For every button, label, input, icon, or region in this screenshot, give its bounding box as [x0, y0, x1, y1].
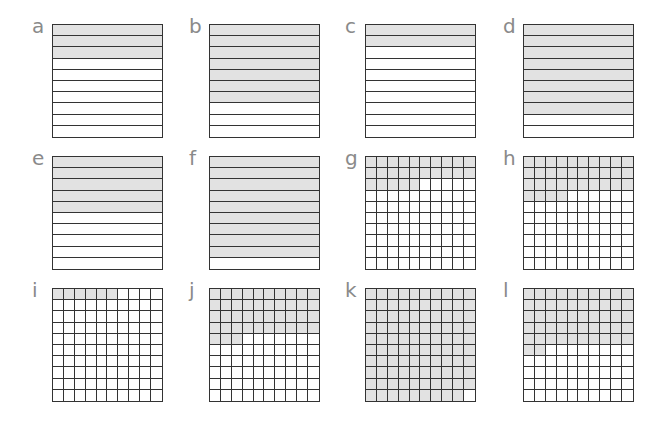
grid-cell [600, 356, 611, 367]
grid-cell [442, 213, 453, 224]
grid-cell [568, 224, 579, 235]
grid-cell [557, 179, 568, 190]
grid-cell [464, 300, 475, 311]
grid-strip [53, 202, 162, 213]
grid-cell [600, 235, 611, 246]
fraction-grid-f [209, 156, 320, 270]
grid-cell [453, 168, 464, 179]
grid-cell [366, 390, 377, 401]
grid-cell [557, 157, 568, 168]
grid-cell [366, 311, 377, 322]
grid-cell [97, 345, 108, 356]
grid-cell [388, 235, 399, 246]
grid-cell [399, 356, 410, 367]
grid-strip [210, 213, 319, 224]
grid-cell [568, 334, 579, 345]
grid-cell [264, 323, 275, 334]
grid-cell [410, 224, 421, 235]
grid-cell [366, 213, 377, 224]
grid-cell [388, 157, 399, 168]
grid-cell [464, 379, 475, 390]
grid-cell [578, 345, 589, 356]
grid-cell [557, 247, 568, 258]
grid-cell [118, 323, 129, 334]
grid-cell [264, 334, 275, 345]
grid-cell [410, 379, 421, 390]
grid-cell [442, 367, 453, 378]
grid-cell [53, 345, 64, 356]
grid-cell [75, 345, 86, 356]
grid-cell [210, 334, 221, 345]
grid-strip [210, 47, 319, 58]
grid-cell [86, 390, 97, 401]
grid-cell [53, 334, 64, 345]
grid-cell [546, 247, 557, 258]
grid-strip [53, 59, 162, 70]
grid-cell [442, 235, 453, 246]
grid-cell [243, 379, 254, 390]
grid-cell [546, 213, 557, 224]
grid-cell [611, 191, 622, 202]
grid-cell [264, 390, 275, 401]
grid-cell [377, 311, 388, 322]
grid-cell [611, 247, 622, 258]
grid-cell [232, 323, 243, 334]
grid-cell [377, 224, 388, 235]
grid-cell [464, 356, 475, 367]
grid-cell [64, 356, 75, 367]
grid-cell [568, 323, 579, 334]
grid-cell [589, 356, 600, 367]
grid-strip [210, 191, 319, 202]
grid-cell [140, 379, 151, 390]
grid-cell [388, 356, 399, 367]
grid-cell [622, 213, 633, 224]
grid-cell [622, 345, 633, 356]
grid-cell [622, 300, 633, 311]
grid-cell [524, 179, 535, 190]
grid-cell [264, 345, 275, 356]
grid-cell [388, 202, 399, 213]
grid-cell [297, 379, 308, 390]
grid-cell [464, 289, 475, 300]
grid-cell [388, 247, 399, 258]
grid-strip [210, 126, 319, 137]
grid-cell [589, 258, 600, 269]
grid-cell [600, 224, 611, 235]
grid-cell [589, 224, 600, 235]
grid-cell [410, 334, 421, 345]
grid-cell [442, 311, 453, 322]
grid-cell [366, 247, 377, 258]
grid-cell [578, 300, 589, 311]
grid-cell [578, 191, 589, 202]
grid-cell [431, 345, 442, 356]
grid-cell [377, 289, 388, 300]
grid-strip [524, 81, 633, 92]
grid-cell [442, 247, 453, 258]
grid-cell [377, 247, 388, 258]
grid-cell [453, 224, 464, 235]
grid-cell [453, 202, 464, 213]
grid-cell [254, 390, 265, 401]
grid-cell [546, 289, 557, 300]
grid-cell [535, 258, 546, 269]
panel-label-a: a [32, 16, 44, 36]
grid-cell [464, 191, 475, 202]
grid-cell [453, 300, 464, 311]
grid-cell [64, 289, 75, 300]
grid-cell [589, 300, 600, 311]
grid-cell [221, 300, 232, 311]
grid-cell [557, 258, 568, 269]
grid-cell [308, 311, 319, 322]
grid-cell [366, 179, 377, 190]
grid-cell [232, 300, 243, 311]
grid-cell [75, 334, 86, 345]
grid-cell [308, 345, 319, 356]
grid-cell [129, 300, 140, 311]
grid-cell [264, 300, 275, 311]
grid-cell [210, 300, 221, 311]
grid-cell [420, 191, 431, 202]
grid-cell [75, 390, 86, 401]
grid-strip [524, 126, 633, 137]
panel-label-k: k [345, 280, 357, 300]
grid-cell [86, 300, 97, 311]
